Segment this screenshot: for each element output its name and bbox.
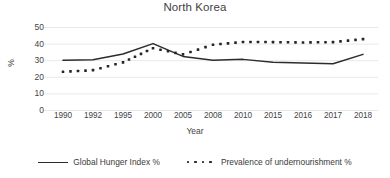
series-dot-1 <box>167 50 170 53</box>
series-dot-1 <box>264 41 267 44</box>
series-dot-1 <box>257 41 260 44</box>
series-dot-1 <box>114 63 117 66</box>
x-axis-tick-label: 2008 <box>204 112 222 120</box>
x-axis-tick-label: 2005 <box>174 112 192 120</box>
legend-swatch-dotted-icon <box>186 161 216 164</box>
x-axis-tick-label: 1992 <box>84 112 102 120</box>
series-dot-1 <box>302 41 305 44</box>
series-dot-1 <box>249 41 252 44</box>
series-dot-1 <box>219 43 222 46</box>
series-dot-1 <box>347 39 350 42</box>
series-dot-1 <box>128 58 131 61</box>
series-dot-1 <box>204 46 207 49</box>
x-axis-tick-label: 2018 <box>354 112 372 120</box>
series-dot-1 <box>324 41 327 44</box>
series-dot-1 <box>69 70 72 73</box>
x-axis-tick-label: 2000 <box>144 112 162 120</box>
series-dot-1 <box>107 65 110 68</box>
series-dot-1 <box>152 47 155 50</box>
x-axis-title: Year <box>0 126 390 136</box>
x-axis-tick-label: 2015 <box>264 112 282 120</box>
legend-label: Prevalence of undernourishment % <box>221 157 352 167</box>
legend-item-1[interactable]: Prevalence of undernourishment % <box>186 157 352 167</box>
series-dot-1 <box>279 41 282 44</box>
series-dot-1 <box>212 43 215 46</box>
series-dot-1 <box>227 42 230 45</box>
series-dot-1 <box>294 41 297 44</box>
series-dot-1 <box>122 61 125 64</box>
legend-swatch-solid-icon <box>38 162 68 163</box>
x-axis-tick-label: 1990 <box>54 112 72 120</box>
series-dot-1 <box>146 50 149 53</box>
series-dot-1 <box>332 41 335 44</box>
series-dot-1 <box>84 69 87 72</box>
chart-legend: Global Hunger Index %Prevalence of under… <box>0 152 390 172</box>
x-axis-tick-label: 1995 <box>114 112 132 120</box>
series-dot-1 <box>134 55 137 58</box>
series-dot-1 <box>309 41 312 44</box>
series-dot-1 <box>234 41 237 44</box>
series-dot-1 <box>77 70 80 73</box>
x-axis-tick-label: 2010 <box>234 112 252 120</box>
series-dot-1 <box>287 41 290 44</box>
series-dot-1 <box>189 51 192 54</box>
x-axis-tick-label: 2017 <box>324 112 342 120</box>
series-dot-1 <box>317 41 320 44</box>
chart-container: North Korea % 01020304050 19901992199520… <box>0 0 390 178</box>
series-dot-1 <box>140 53 143 56</box>
series-dot-1 <box>272 41 275 44</box>
legend-item-0[interactable]: Global Hunger Index % <box>38 157 160 167</box>
series-dot-1 <box>242 41 245 44</box>
series-dot-1 <box>174 52 177 55</box>
series-dot-1 <box>182 53 185 56</box>
series-dot-1 <box>354 39 357 42</box>
series-dot-1 <box>62 71 65 74</box>
series-dot-1 <box>159 48 162 51</box>
x-axis-tick-labels: 1990199219952000200520082010201520162017… <box>0 112 390 126</box>
series-dot-1 <box>197 48 200 51</box>
series-dot-1 <box>99 67 102 70</box>
series-dot-1 <box>92 69 95 72</box>
series-group <box>62 38 365 73</box>
x-axis-tick-label: 2016 <box>294 112 312 120</box>
series-dot-1 <box>339 40 342 43</box>
series-dot-1 <box>362 38 365 41</box>
legend-label: Global Hunger Index % <box>73 157 160 167</box>
